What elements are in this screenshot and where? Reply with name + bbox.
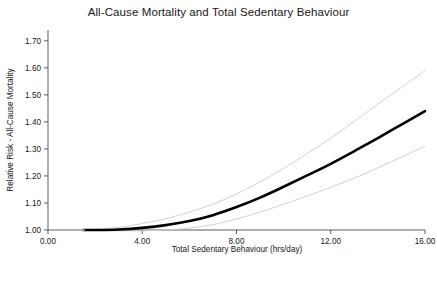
- x-tick-label: 0.00: [40, 237, 56, 246]
- x-tick-label: 16.00: [415, 237, 436, 246]
- y-tick-label: 1.20: [25, 172, 41, 181]
- y-tick-label: 1.40: [25, 118, 41, 127]
- confidence-interval-curve: [83, 71, 425, 230]
- y-tick-label: 1.50: [25, 91, 41, 100]
- x-axis-label: Total Sedentary Behaviour (hrs/day): [172, 245, 303, 254]
- x-tick-label: 12.00: [321, 237, 342, 246]
- y-axis-ticks: 1.001.101.201.301.401.501.601.70: [25, 37, 48, 235]
- cut-off-caption: [0, 276, 437, 288]
- confidence-interval-curve: [83, 146, 425, 231]
- chart-figure: All-Cause Mortality and Total Sedentary …: [0, 0, 437, 288]
- y-tick-label: 1.30: [25, 145, 41, 154]
- x-tick-label: 4.00: [134, 237, 150, 246]
- y-tick-label: 1.10: [25, 199, 41, 208]
- y-tick-label: 1.00: [25, 226, 41, 235]
- reference-point-marker: [82, 228, 85, 231]
- y-tick-label: 1.70: [25, 37, 41, 46]
- y-axis-label: Relative Risk - All-Cause Mortality: [6, 67, 15, 191]
- x-axis-ticks: 0.004.008.0012.0016.00: [40, 230, 436, 246]
- series-layer: [83, 71, 425, 231]
- risk-curve: [83, 111, 425, 230]
- plot-area: 1.001.101.201.301.401.501.601.70 0.004.0…: [0, 0, 437, 288]
- y-tick-label: 1.60: [25, 64, 41, 73]
